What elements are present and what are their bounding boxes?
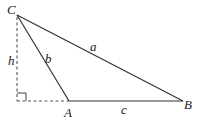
vertex-label-b: B [184,97,192,112]
triangle-diagram: C A B a b c h [0,0,197,122]
side-label-a: a [90,39,97,54]
vertex-label-a: A [63,105,72,120]
right-angle-marker [17,93,26,101]
side-label-c: c [121,102,127,117]
side-label-b: b [45,51,52,66]
side-a [17,15,183,101]
altitude-label-h: h [8,53,15,68]
vertex-label-c: C [7,2,16,17]
